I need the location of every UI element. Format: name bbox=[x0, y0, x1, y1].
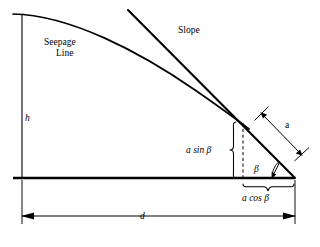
d-arrowhead-right bbox=[283, 213, 296, 220]
seepage-line-label-row1: Seepage bbox=[44, 37, 76, 47]
height-h-label: h bbox=[25, 113, 30, 123]
seepage-line-curve bbox=[13, 14, 249, 129]
diagram-canvas: Seepage Line Slope h d a a sin β a cos β… bbox=[0, 0, 320, 247]
distance-d-label: d bbox=[140, 211, 145, 221]
a-cos-beta-label: a cos β bbox=[242, 193, 269, 203]
slope-label: Slope bbox=[178, 25, 200, 35]
segment-a-label: a bbox=[285, 120, 290, 130]
slope-face-line bbox=[128, 10, 295, 178]
d-arrowhead-left bbox=[21, 213, 34, 220]
beta-angle-label: β bbox=[253, 164, 259, 174]
brace-a-sin-beta bbox=[230, 122, 236, 178]
brace-a-cos-beta bbox=[243, 184, 294, 191]
a-dimension-line bbox=[262, 114, 302, 155]
seepage-line-label-row2: Line bbox=[56, 48, 73, 58]
slope-seepage-figure: Seepage Line Slope h d a a sin β a cos β… bbox=[0, 0, 320, 247]
a-sin-beta-label: a sin β bbox=[186, 145, 212, 155]
